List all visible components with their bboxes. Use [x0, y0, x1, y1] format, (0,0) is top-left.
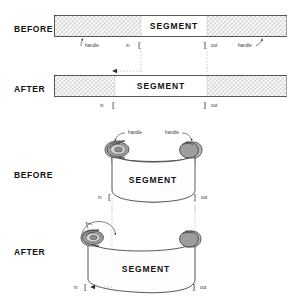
roll-after-segment-label: SEGMENT — [122, 264, 170, 274]
flat-before-out-bracket: ] — [203, 40, 206, 50]
flat-before-out-label: out — [211, 43, 218, 48]
flat-before-row-label: BEFORE — [14, 24, 53, 34]
flat-before-in-label: in — [126, 43, 130, 48]
roll-after-right-roll[interactable] — [180, 231, 202, 247]
roll-before-left-handle-label: handle — [128, 130, 142, 135]
diagram-canvas: BEFORE SEGMENT handle in [ ] out — [0, 0, 302, 300]
flat-before-left-handle-leader — [81, 39, 83, 47]
flat-before-in-bracket: [ — [138, 40, 141, 50]
roll-before-right-roll[interactable] — [180, 142, 203, 158]
flat-after-out-label: out — [211, 103, 218, 108]
roll-before-right-handle-leader — [182, 133, 192, 141]
roll-before-left-roll[interactable] — [105, 141, 129, 158]
flat-before-right-handle-hatch-overlay — [207, 16, 287, 36]
flat-before-left-handle-label: handle — [85, 43, 99, 48]
flat-after-group: AFTER SEGMENT in [ ] out — [14, 76, 287, 111]
roll-before-out-bracket: ] — [193, 192, 196, 202]
flat-after-row-label: AFTER — [14, 84, 45, 94]
roll-before-segment-label: SEGMENT — [129, 175, 177, 185]
roll-before-row-label: BEFORE — [14, 170, 53, 180]
roll-after-in-bracket: [ — [84, 282, 87, 292]
roll-after-row-label: AFTER — [14, 247, 45, 257]
roll-before-right-handle-label: handle — [165, 130, 179, 135]
roll-before-in-label: in — [98, 195, 102, 200]
flat-after-in-label: in — [100, 103, 104, 108]
roll-before-left-handle-leader — [115, 133, 125, 141]
flat-trim-arrow-head — [112, 69, 117, 74]
roll-after-in-label: in — [74, 285, 78, 290]
flat-before-right-handle-label: handle — [238, 43, 252, 48]
flat-after-right-handle-hatch-overlay — [207, 76, 287, 96]
flat-before-left-handle-hatch-overlay — [55, 16, 141, 36]
flat-after-in-bracket: [ — [112, 100, 115, 110]
roll-after-out-label: out — [200, 285, 207, 290]
roll-after-left-roll[interactable] — [81, 230, 104, 246]
roll-after-group: AFTER SEGMENT — [14, 206, 207, 293]
flat-after-segment-label: SEGMENT — [137, 81, 185, 91]
flat-after-out-bracket: ] — [203, 100, 206, 110]
roll-before-out-label: out — [201, 195, 208, 200]
flat-after-left-handle-hatch-overlay — [55, 76, 115, 96]
roll-after-out-bracket: ] — [192, 282, 195, 292]
flat-before-right-handle-leader — [256, 39, 262, 46]
flat-before-segment-label: SEGMENT — [150, 21, 198, 31]
segment-handles-diagram: BEFORE SEGMENT handle in [ ] out — [0, 0, 302, 300]
flat-before-group: BEFORE SEGMENT handle in [ ] out — [14, 16, 287, 75]
roll-before-in-bracket: [ — [108, 192, 111, 202]
roll-before-group: BEFORE handle handle SEGMENT — [14, 130, 208, 213]
roll-after-trim-arrow-head — [90, 285, 95, 289]
